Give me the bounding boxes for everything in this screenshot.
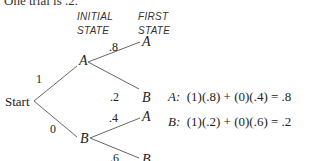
node-start: Start [5, 94, 30, 110]
edge-a-b [88, 62, 139, 89]
equation-b-state: B: [168, 114, 180, 129]
node-a-a: A [142, 34, 151, 50]
prob-b-b: .6 [110, 151, 119, 161]
prob-start-a: 1 [36, 72, 42, 87]
equation-b: B: (1)(.2) + (0)(.6) = .2 [168, 114, 291, 130]
node-a-b: B [142, 90, 151, 106]
node-b-b: B [142, 152, 151, 161]
equation-a-expr: (1)(.8) + (0)(.4) = .8 [187, 89, 292, 104]
prob-b-a: .4 [109, 111, 118, 126]
tree-lines [0, 0, 312, 161]
prob-start-b: 0 [50, 122, 56, 137]
equation-a: A: (1)(.8) + (0)(.4) = .8 [168, 89, 291, 105]
node-b-a: A [142, 109, 151, 125]
equation-b-expr: (1)(.2) + (0)(.6) = .2 [187, 114, 292, 129]
node-initial-a: A [79, 53, 88, 69]
equation-a-state: A: [168, 89, 180, 104]
node-initial-b: B [80, 131, 89, 147]
prob-a-a: .8 [109, 40, 118, 55]
prob-a-b: .2 [110, 90, 119, 105]
